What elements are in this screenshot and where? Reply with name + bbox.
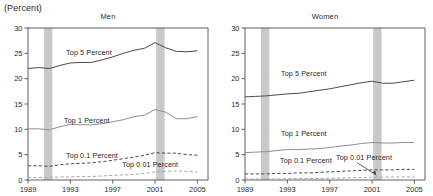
y-tick-label: 5 bbox=[18, 150, 22, 159]
series-annotation-label: Top 5 Percent bbox=[66, 48, 112, 57]
series-line bbox=[245, 177, 414, 179]
y-tick-label: 15 bbox=[14, 100, 22, 109]
chart-figure: (Percent) Men 05101520253019891993199720… bbox=[0, 0, 433, 196]
series-annotation-label: Top 0.1 Percent bbox=[280, 156, 332, 165]
series-line bbox=[245, 80, 414, 97]
y-tick-label: 0 bbox=[18, 176, 22, 185]
x-tick-label: 1997 bbox=[321, 185, 338, 194]
plot-area-women: 05101520253019891993199720012005Top 5 Pe… bbox=[219, 10, 431, 196]
plot-area-men: 05101520253019891993199720012005Top 5 Pe… bbox=[2, 10, 214, 196]
y-tick-label: 5 bbox=[235, 150, 239, 159]
y-tick-label: 20 bbox=[14, 74, 22, 83]
x-tick-label: 1993 bbox=[62, 185, 79, 194]
x-tick-label: 2001 bbox=[364, 185, 381, 194]
series-line bbox=[28, 43, 197, 69]
series-line bbox=[28, 171, 197, 178]
y-tick-label: 0 bbox=[235, 176, 239, 185]
plot-frame bbox=[28, 28, 208, 180]
series-annotation-label: Top 0.01 Percent bbox=[336, 153, 392, 162]
series-annotation-label: Top 0.01 Percent bbox=[122, 160, 178, 169]
x-tick-label: 1989 bbox=[20, 185, 37, 194]
x-tick-label: 2001 bbox=[147, 185, 164, 194]
y-tick-label: 30 bbox=[231, 24, 239, 33]
plot-svg-women: 05101520253019891993199720012005Top 5 Pe… bbox=[219, 10, 431, 196]
recession-band bbox=[156, 28, 164, 180]
x-tick-label: 1993 bbox=[279, 185, 296, 194]
series-annotation-label: Top 0.1 Percent bbox=[66, 151, 118, 160]
y-tick-label: 30 bbox=[14, 24, 22, 33]
x-tick-label: 1997 bbox=[104, 185, 121, 194]
series-line bbox=[245, 143, 414, 153]
y-tick-label: 20 bbox=[231, 74, 239, 83]
y-tick-label: 25 bbox=[14, 49, 22, 58]
y-tick-label: 10 bbox=[231, 125, 239, 134]
y-tick-label: 25 bbox=[231, 49, 239, 58]
recession-band bbox=[261, 28, 269, 180]
series-annotation-label: Top 1 Percent bbox=[281, 129, 327, 138]
series-annotation-label: Top 5 Percent bbox=[281, 69, 327, 78]
y-tick-label: 15 bbox=[231, 100, 239, 109]
x-tick-label: 2005 bbox=[406, 185, 423, 194]
plot-frame bbox=[245, 28, 425, 180]
chart-panel-men: Men 05101520253019891993199720012005Top … bbox=[2, 10, 214, 196]
y-tick-label: 10 bbox=[14, 125, 22, 134]
recession-band bbox=[44, 28, 52, 180]
series-line bbox=[28, 110, 197, 130]
x-tick-label: 1989 bbox=[237, 185, 254, 194]
series-annotation-label: Top 1 Percent bbox=[64, 116, 110, 125]
x-tick-label: 2005 bbox=[189, 185, 206, 194]
series-line bbox=[245, 169, 414, 174]
chart-panel-women: Women 05101520253019891993199720012005To… bbox=[219, 10, 431, 196]
plot-svg-men: 05101520253019891993199720012005Top 5 Pe… bbox=[2, 10, 214, 196]
